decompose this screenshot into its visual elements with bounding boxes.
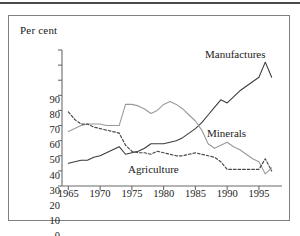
- x-axis-tick-label: 1980: [153, 189, 174, 200]
- y-axis-tick-label: 0: [38, 231, 60, 236]
- y-axis-title: Per cent: [20, 24, 57, 36]
- x-axis-tick-label: 1970: [90, 189, 111, 200]
- y-axis-tick-label: 20: [38, 201, 60, 212]
- series-line-manufactures: [68, 62, 271, 163]
- y-axis-tick-label: 80: [38, 110, 60, 121]
- x-axis-tick-labels: 1965197019751980198519901995: [62, 189, 278, 205]
- series-label-manufactures: Manufactures: [205, 49, 265, 60]
- x-axis-tick-label: 1990: [217, 189, 238, 200]
- x-axis-tick-label: 1965: [58, 189, 79, 200]
- series-label-minerals: Minerals: [207, 128, 246, 139]
- x-axis-tick-label: 1985: [185, 189, 206, 200]
- x-axis-tick-label: 1995: [248, 189, 269, 200]
- y-axis-tick-label: 40: [38, 171, 60, 182]
- x-axis-tick-label: 1975: [121, 189, 142, 200]
- y-axis-tick-label: 60: [38, 140, 60, 151]
- y-axis-tick-label: 50: [38, 155, 60, 166]
- y-axis-tick-label: 10: [38, 216, 60, 227]
- y-axis-tick-label: 70: [38, 125, 60, 136]
- y-axis-tick-label: 30: [38, 186, 60, 197]
- y-axis-tick-label: 90: [38, 95, 60, 106]
- figure-container: Per cent 0102030405060708090 19651970197…: [0, 0, 300, 236]
- top-rule: [0, 2, 300, 4]
- series-label-agriculture: Agriculture: [128, 164, 179, 175]
- y-axis-tick-labels: 0102030405060708090: [34, 50, 60, 186]
